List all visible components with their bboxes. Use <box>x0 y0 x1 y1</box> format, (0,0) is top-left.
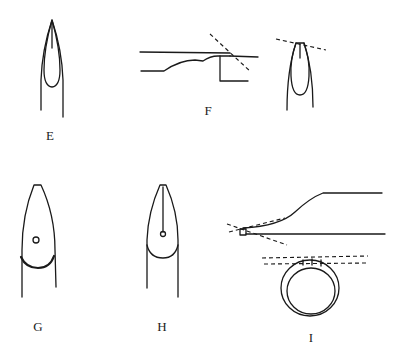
figure-f-side-profile <box>140 34 258 81</box>
free-edge-arc <box>147 245 178 258</box>
nail-top-line <box>140 52 230 53</box>
ring-inner <box>287 268 335 314</box>
label-g: G <box>33 320 42 333</box>
angle-dashed-line-upper <box>229 218 285 232</box>
label-h: H <box>157 320 166 333</box>
nail-diagram: E F G H I <box>0 0 397 353</box>
nail-dot <box>33 237 39 243</box>
figure-h-tapered-nail-with-line <box>147 185 178 297</box>
nail-tip-line <box>230 56 258 57</box>
label-i: I <box>309 331 313 344</box>
tip-dashed-line <box>276 39 326 50</box>
guide-dashed-line-lower <box>264 263 368 264</box>
guide-dashed-line-upper <box>262 256 368 258</box>
label-f: F <box>204 104 211 117</box>
figure-g-tapered-nail <box>21 185 56 297</box>
figure-i-side-profile <box>227 193 385 245</box>
label-e: E <box>46 129 54 142</box>
figure-i-cross-section <box>262 256 368 316</box>
diagram-canvas <box>0 0 397 353</box>
finger-profile <box>141 56 230 71</box>
figure-e-pointed-nail <box>41 20 63 117</box>
finger-step <box>220 56 248 81</box>
free-edge-arc <box>21 256 54 268</box>
figure-f-front-view <box>276 39 326 110</box>
